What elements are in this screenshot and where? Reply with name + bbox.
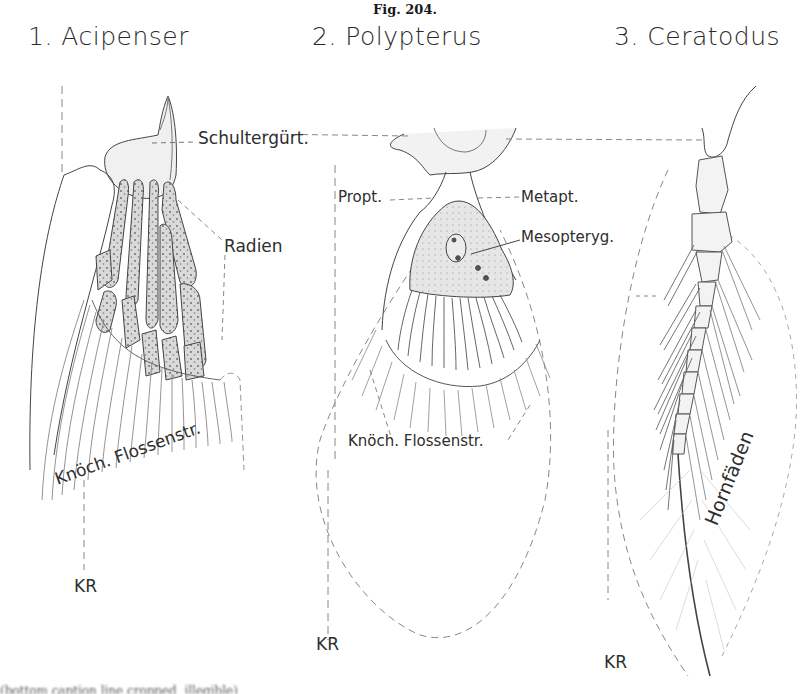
label-mesopteryg: Mesopteryg. xyxy=(521,228,614,246)
label-propt: Propt. xyxy=(338,188,382,206)
acipenser-fin xyxy=(30,86,244,570)
figure-204: Fig. 204. 1. Acipenser 2. Polypterus 3. … xyxy=(0,0,810,694)
fin-illustrations xyxy=(0,0,810,694)
label-kr-ceratodus: KR xyxy=(604,652,627,672)
label-kr-acipenser: KR xyxy=(74,576,97,596)
polypterus-fin xyxy=(262,128,702,640)
label-knoch-flossenstr-polypterus: Knöch. Flossenstr. xyxy=(348,432,483,450)
label-metapt: Metapt. xyxy=(521,188,578,206)
label-schultergurt: Schultergürt. xyxy=(198,128,309,148)
label-radien: Radien xyxy=(224,236,283,256)
ceratodus-fin xyxy=(608,86,796,676)
figure-caption-cropped: (bottom caption line cropped, illegible) xyxy=(0,684,810,694)
label-kr-polypterus: KR xyxy=(316,634,339,654)
